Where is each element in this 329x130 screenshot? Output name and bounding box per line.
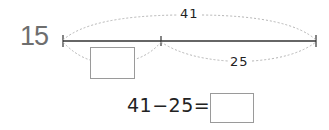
part-label: 25 — [230, 54, 249, 69]
unknown-arc-right — [133, 42, 161, 60]
unknown-arc-left — [63, 42, 90, 60]
unknown-part-box[interactable] — [90, 47, 135, 79]
equation-text: 41−25= — [127, 94, 210, 116]
total-arc-right — [202, 15, 316, 40]
answer-box[interactable] — [210, 93, 254, 123]
total-label: 41 — [180, 6, 199, 21]
part-arc-right — [252, 42, 316, 61]
part-arc-left — [161, 42, 228, 61]
